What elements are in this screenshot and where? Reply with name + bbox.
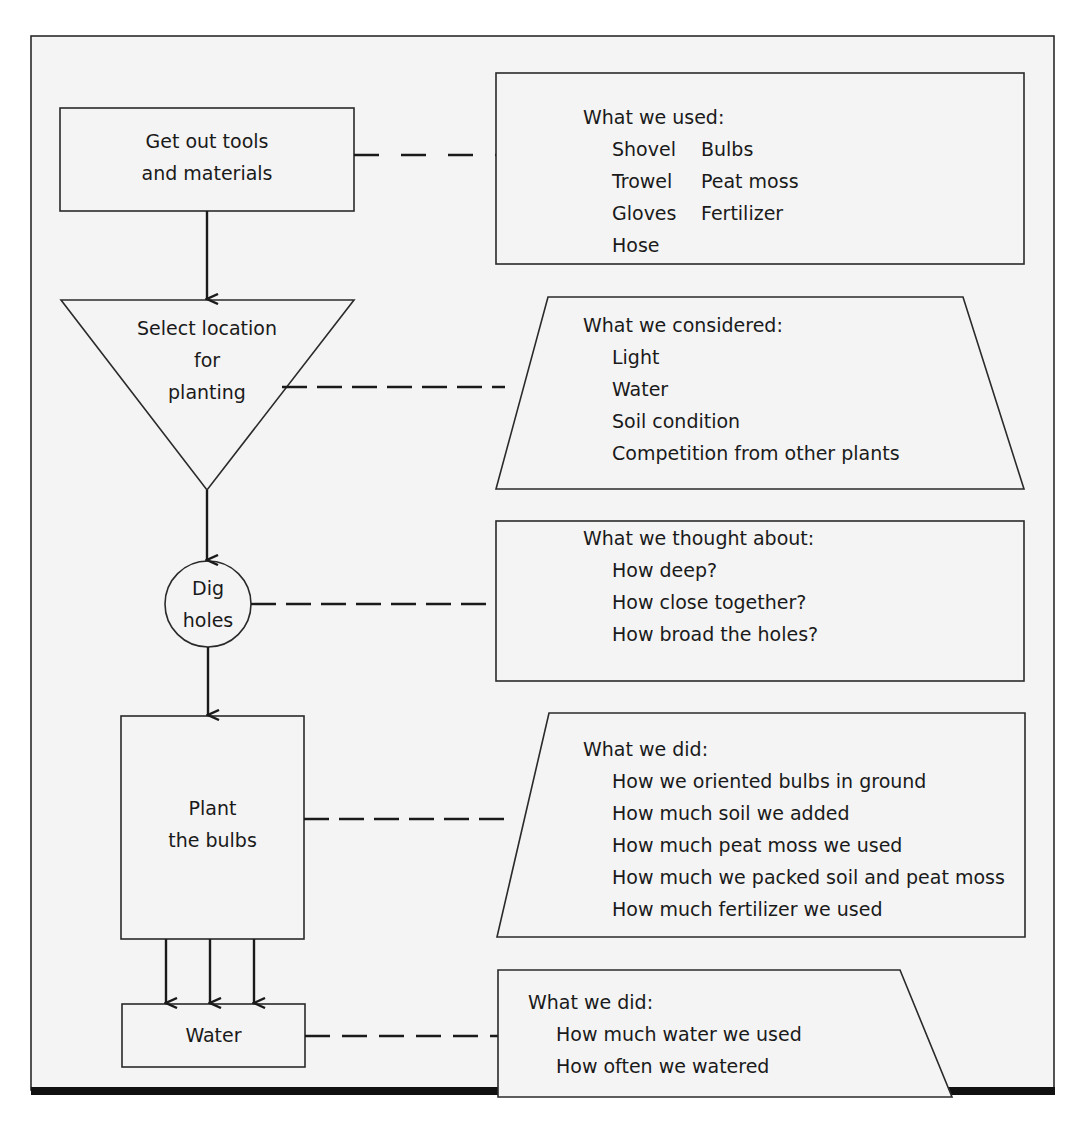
note-did-plant-item: How much peat moss we used bbox=[612, 829, 902, 861]
step-plant-line-1: Plant bbox=[121, 792, 304, 824]
note-did-plant-title: What we did: bbox=[583, 733, 708, 765]
note-considered-item: Soil condition bbox=[612, 405, 740, 437]
step-tools-line-1: Get out tools bbox=[60, 125, 354, 157]
step-dig-label: Dig holes bbox=[158, 572, 258, 636]
note-did-plant-item: How we oriented bulbs in ground bbox=[612, 765, 926, 797]
note-did-water-item: How often we watered bbox=[556, 1050, 769, 1082]
step-location-line-1: Select location bbox=[60, 312, 354, 344]
note-used-col2-item: Peat moss bbox=[701, 165, 799, 197]
step-water-label: Water bbox=[122, 1019, 305, 1051]
note-used-col2-item: Fertilizer bbox=[701, 197, 783, 229]
step-water-line-1: Water bbox=[122, 1019, 305, 1051]
note-considered-item: Water bbox=[612, 373, 668, 405]
note-thought-item: How close together? bbox=[612, 586, 806, 618]
step-plant-line-2: the bulbs bbox=[121, 824, 304, 856]
step-location-line-2: for bbox=[60, 344, 354, 376]
note-used-col1-item: Gloves bbox=[612, 197, 676, 229]
step-tools-label: Get out tools and materials bbox=[60, 125, 354, 189]
note-used-col1-item: Trowel bbox=[612, 165, 672, 197]
step-plant-label: Plant the bulbs bbox=[121, 792, 304, 856]
step-tools-line-2: and materials bbox=[60, 157, 354, 189]
note-considered-item: Competition from other plants bbox=[612, 437, 900, 469]
note-thought-item: How deep? bbox=[612, 554, 717, 586]
note-considered-title: What we considered: bbox=[583, 309, 783, 341]
note-thought-title: What we thought about: bbox=[583, 522, 814, 554]
note-used-col1-item: Hose bbox=[612, 229, 660, 261]
note-thought-item: How broad the holes? bbox=[612, 618, 818, 650]
step-location-label: Select location for planting bbox=[60, 312, 354, 408]
step-dig-line-2: holes bbox=[158, 604, 258, 636]
note-considered-item: Light bbox=[612, 341, 659, 373]
note-did-water-item: How much water we used bbox=[556, 1018, 802, 1050]
step-dig-line-1: Dig bbox=[158, 572, 258, 604]
note-used-col2-item: Bulbs bbox=[701, 133, 753, 165]
note-did-water-title: What we did: bbox=[528, 986, 653, 1018]
note-did-plant-item: How much soil we added bbox=[612, 797, 849, 829]
note-used-title: What we used: bbox=[583, 101, 724, 133]
step-location-line-3: planting bbox=[60, 376, 354, 408]
note-did-plant-item: How much we packed soil and peat moss bbox=[612, 861, 1005, 893]
note-used-col1-item: Shovel bbox=[612, 133, 676, 165]
note-did-plant-item: How much fertilizer we used bbox=[612, 893, 883, 925]
